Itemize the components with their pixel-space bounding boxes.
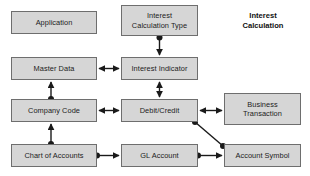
diagram-title: Interest Calculation xyxy=(221,11,305,30)
node-business-transaction[interactable]: Business Transaction xyxy=(224,93,301,125)
node-interest-calculation-type[interactable]: Interest Calculation Type xyxy=(121,5,198,36)
node-company-code[interactable]: Company Code xyxy=(11,99,97,122)
node-application[interactable]: Application xyxy=(11,11,97,34)
node-master-data[interactable]: Master Data xyxy=(11,57,97,80)
node-account-symbol[interactable]: Account Symbol xyxy=(224,144,301,167)
node-gl-account[interactable]: GL Account xyxy=(121,144,198,167)
node-chart-of-accounts[interactable]: Chart of Accounts xyxy=(11,144,97,167)
interest-calculation-diagram: Interest Calculation ApplicationInterest… xyxy=(0,0,310,176)
edge-debit-credit-to-account-symbol xyxy=(195,122,223,146)
node-interest-indicator[interactable]: Interest Indicator xyxy=(121,57,198,80)
node-debit-credit[interactable]: Debit/Credit xyxy=(121,99,198,122)
